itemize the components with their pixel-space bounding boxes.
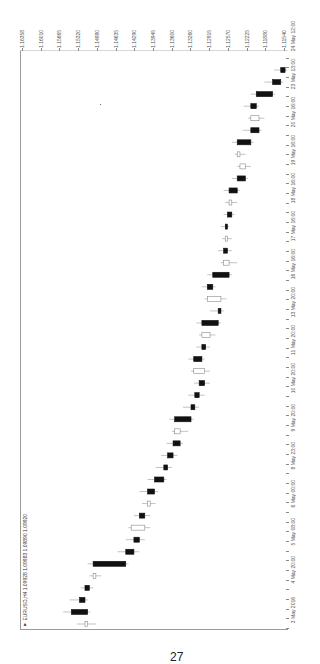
chart-frame	[20, 50, 288, 630]
price-axis-tick	[59, 48, 60, 51]
bearish-candle	[264, 80, 283, 85]
price-axis-label: 1.13260	[187, 28, 197, 48]
time-axis-tick	[286, 609, 289, 610]
bearish-candle	[161, 453, 177, 458]
time-axis-tick	[286, 589, 289, 590]
time-axis-tick	[286, 203, 289, 204]
bullish-candle	[237, 164, 251, 169]
price-axis-tick	[284, 48, 285, 51]
bearish-candle	[81, 585, 94, 590]
price-axis-label: 1.12225	[244, 28, 254, 48]
time-axis-tick	[286, 241, 289, 242]
time-axis-label: 13 May 20:00	[290, 287, 300, 317]
bullish-candle	[172, 429, 188, 434]
price-axis-tick	[265, 48, 266, 51]
time-axis-tick	[286, 396, 289, 397]
bullish-candle	[235, 152, 246, 157]
time-axis-tick	[286, 106, 289, 107]
time-axis-tick	[286, 116, 289, 117]
bearish-candle	[196, 345, 210, 350]
price-axis-tick	[78, 48, 79, 51]
bearish-candle	[148, 477, 167, 482]
bearish-candle	[196, 320, 220, 325]
time-axis-tick	[286, 232, 289, 233]
bullish-candle	[221, 260, 237, 265]
time-axis-tick	[286, 193, 289, 194]
time-axis-label: 18 May 16:00	[290, 173, 300, 203]
time-axis-tick	[286, 222, 289, 223]
bullish-candle	[191, 369, 210, 374]
time-axis-tick	[286, 599, 289, 600]
time-axis-tick	[286, 96, 289, 97]
price-axis-label: 1.13600	[169, 28, 179, 48]
time-axis-tick	[286, 522, 289, 523]
time-axis-label: 5 May 08:00	[290, 518, 300, 546]
stray-mark	[100, 104, 101, 105]
time-axis-tick	[286, 425, 289, 426]
bearish-candle	[188, 393, 204, 398]
time-axis-tick	[286, 435, 289, 436]
time-axis-tick	[286, 87, 289, 88]
bearish-candle	[224, 188, 240, 193]
time-axis-tick	[286, 164, 289, 165]
bearish-candle	[218, 248, 232, 253]
time-axis-tick	[286, 309, 289, 310]
bearish-candle	[118, 549, 140, 554]
price-axis-tick	[134, 48, 135, 51]
time-axis-tick	[286, 67, 289, 68]
bearish-candle	[207, 272, 231, 277]
time-axis-tick	[286, 319, 289, 320]
time-axis-label: 8 May 23:00	[290, 442, 300, 470]
price-axis-label: 1.14290	[131, 28, 141, 48]
time-axis-tick	[286, 483, 289, 484]
price-axis-tick	[172, 48, 173, 51]
bearish-candle	[202, 284, 216, 289]
time-axis-tick	[286, 125, 289, 126]
time-axis-label: 9 May 20:00	[290, 404, 300, 432]
time-axis-tick	[286, 338, 289, 339]
time-axis-tick	[286, 58, 289, 59]
bullish-candle	[128, 525, 150, 530]
bearish-candle	[88, 561, 129, 566]
price-axis-label: 1.13945	[150, 28, 160, 48]
time-axis-tick	[286, 357, 289, 358]
page-number: 27	[170, 650, 183, 664]
time-axis-tick	[286, 493, 289, 494]
time-axis-label: 10 May 20:00	[290, 363, 300, 393]
bullish-candle	[248, 116, 264, 121]
time-axis-tick	[286, 512, 289, 513]
bearish-candle	[194, 381, 210, 386]
time-axis-tick	[286, 154, 289, 155]
time-axis-tick	[286, 560, 289, 561]
bullish-candle	[205, 296, 227, 301]
price-axis-tick	[153, 48, 154, 51]
bearish-candle	[210, 308, 224, 313]
time-axis-label: 16 May 16:00	[290, 249, 300, 279]
time-axis-tick	[286, 174, 289, 175]
time-axis-tick	[286, 367, 289, 368]
time-axis-label: 20 May 16:00	[290, 97, 300, 127]
time-axis-label: 17 May 16:00	[290, 211, 300, 241]
bearish-candle	[251, 92, 275, 97]
price-axis-label: 1.14980	[94, 28, 104, 48]
time-axis-label: 24 May 12:00	[290, 21, 300, 51]
time-axis-tick	[286, 280, 289, 281]
bearish-candle	[221, 224, 229, 229]
bearish-candle	[188, 357, 204, 362]
time-axis-label: 3 May 2016	[290, 597, 300, 623]
price-axis-label: 1.16010	[38, 28, 48, 48]
bearish-candle	[232, 140, 254, 145]
time-axis-tick	[286, 454, 289, 455]
time-axis-tick	[286, 551, 289, 552]
price-axis-label: 1.11880	[262, 28, 272, 48]
time-axis-tick	[286, 183, 289, 184]
bullish-candle	[225, 200, 237, 205]
time-axis-label: 19 May 16:00	[290, 135, 300, 165]
price-axis-tick	[228, 48, 229, 51]
bullish-candle	[199, 332, 215, 337]
bearish-candle	[156, 465, 172, 470]
price-axis-tick	[247, 48, 248, 51]
time-axis-tick	[286, 251, 289, 252]
bearish-candle	[244, 104, 259, 109]
time-axis-tick	[286, 628, 289, 629]
